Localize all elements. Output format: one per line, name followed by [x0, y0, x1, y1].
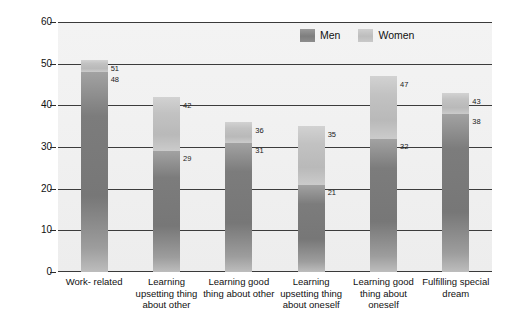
x-axis-label: Work- related [58, 276, 130, 288]
y-tick-label: 40 [30, 100, 52, 110]
legend-swatch-women [358, 29, 373, 42]
bar-group[interactable] [225, 122, 252, 272]
legend-swatch-men [300, 29, 315, 42]
bar-segment-men[interactable] [153, 151, 180, 272]
bar-chart: Percentage reporting 0102030405060 MenWo… [0, 0, 509, 328]
y-tick-mark [50, 230, 56, 231]
y-tick-label: 50 [30, 59, 52, 69]
data-label-women: 51 [111, 65, 119, 73]
legend-item-women[interactable]: Women [358, 29, 414, 42]
data-label-women: 47 [400, 81, 408, 89]
bar-segment-women[interactable] [442, 93, 469, 114]
data-label-women: 42 [183, 102, 191, 110]
data-label-men: 32 [400, 143, 408, 151]
legend-label: Men [320, 29, 340, 41]
bar-group[interactable] [442, 93, 469, 272]
legend-label: Women [378, 29, 414, 41]
bar-segment-women[interactable] [81, 60, 108, 73]
bar-segment-men[interactable] [370, 139, 397, 272]
y-axis-ticks: 0102030405060 [24, 0, 52, 328]
y-tick-label: 30 [30, 142, 52, 152]
bar-segment-men[interactable] [81, 72, 108, 272]
y-tick-mark [50, 189, 56, 190]
bar-segment-women[interactable] [298, 126, 325, 184]
bar-group[interactable] [370, 76, 397, 272]
bars-layer: 514842293631352147324338 [58, 22, 492, 272]
y-tick-label: 0 [30, 267, 52, 277]
bar-group[interactable] [81, 60, 108, 273]
y-tick-label: 10 [30, 225, 52, 235]
legend: MenWomen [300, 27, 426, 43]
y-tick-mark [50, 64, 56, 65]
y-tick-label: 60 [30, 17, 52, 27]
legend-item-men[interactable]: Men [300, 29, 340, 42]
x-axis-label: Learning good thing about oneself [347, 276, 419, 311]
data-label-men: 31 [255, 147, 263, 155]
bar-segment-women[interactable] [370, 76, 397, 139]
data-label-women: 36 [255, 127, 263, 135]
x-axis-labels: Work- relatedLearning upsetting thing ab… [58, 276, 492, 326]
bar-segment-men[interactable] [298, 185, 325, 273]
y-tick-mark [50, 272, 56, 273]
x-axis-label: Fulfilling special dream [420, 276, 492, 299]
data-label-men: 29 [183, 155, 191, 163]
y-tick-mark [50, 22, 56, 23]
data-label-men: 48 [111, 76, 119, 84]
y-tick-mark [50, 105, 56, 106]
bar-segment-men[interactable] [442, 114, 469, 272]
data-label-women: 43 [472, 98, 480, 106]
x-axis-label: Learning good thing about other [203, 276, 275, 299]
bar-segment-women[interactable] [153, 97, 180, 151]
data-label-men: 38 [472, 118, 480, 126]
y-tick-mark [50, 147, 56, 148]
bar-group[interactable] [298, 126, 325, 272]
y-tick-label: 20 [30, 184, 52, 194]
data-label-women: 35 [328, 131, 336, 139]
bar-segment-women[interactable] [225, 122, 252, 143]
data-label-men: 21 [328, 189, 336, 197]
x-axis-label: Learning upsetting thing about other [130, 276, 202, 311]
bar-group[interactable] [153, 97, 180, 272]
bar-segment-men[interactable] [225, 143, 252, 272]
x-axis-label: Learning upsetting thing about oneself [275, 276, 347, 311]
